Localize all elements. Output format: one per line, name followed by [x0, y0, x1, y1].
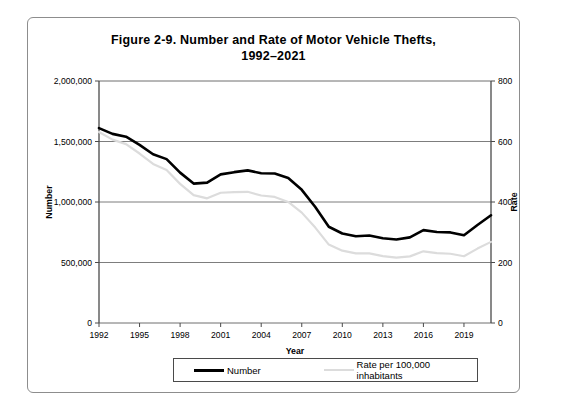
chart-plot-area: 0500,0001,000,0001,500,0002,000,00002004…: [28, 18, 521, 394]
legend-item-number: Number: [194, 359, 261, 381]
y-axis-title-left: Number: [44, 185, 54, 219]
x-ticklabel-2004: 2004: [252, 330, 271, 340]
legend-label-number: Number: [227, 365, 261, 376]
y-ticklabel-right-0: 0: [498, 318, 503, 328]
series-line-rate: [99, 132, 491, 258]
x-ticklabel-2010: 2010: [333, 330, 352, 340]
x-ticklabel-2007: 2007: [292, 330, 311, 340]
x-ticklabel-2016: 2016: [414, 330, 433, 340]
legend-swatch-rate-icon: [324, 369, 354, 371]
legend-item-rate: Rate per 100,000 inhabitants: [324, 359, 477, 381]
chart-legend: Number Rate per 100,000 inhabitants: [173, 358, 478, 382]
x-axis-title: Year: [286, 346, 305, 356]
x-ticklabel-2019: 2019: [454, 330, 473, 340]
x-ticklabel-2013: 2013: [373, 330, 392, 340]
figure-frame: Figure 2-9. Number and Rate of Motor Veh…: [27, 17, 520, 393]
y-ticklabel-left-500000: 500,000: [61, 258, 92, 268]
x-ticklabel-1992: 1992: [89, 330, 108, 340]
y-ticklabel-left-0: 0: [87, 318, 92, 328]
legend-swatch-number-icon: [194, 369, 224, 372]
y-ticklabel-left-1000000: 1,000,000: [54, 197, 92, 207]
y-ticklabel-right-600: 600: [498, 137, 513, 147]
y-axis-title-right: Rate: [509, 192, 519, 211]
y-ticklabel-left-2000000: 2,000,000: [54, 76, 92, 86]
y-ticklabel-right-800: 800: [498, 76, 513, 86]
y-ticklabel-right-200: 200: [498, 258, 513, 268]
y-ticklabel-left-1500000: 1,500,000: [54, 137, 92, 147]
legend-label-rate: Rate per 100,000 inhabitants: [357, 359, 477, 381]
x-ticklabel-1995: 1995: [130, 330, 149, 340]
x-ticklabel-1998: 1998: [171, 330, 190, 340]
series-line-number: [99, 128, 491, 239]
x-ticklabel-2001: 2001: [211, 330, 230, 340]
